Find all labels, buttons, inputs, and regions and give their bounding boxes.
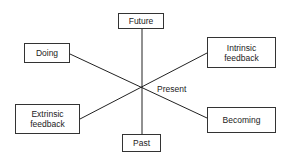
node-extrinsic-feedback: Extrinsic feedback [15,104,80,134]
node-intrinsic-feedback: Intrinsic feedback [207,37,276,68]
center-label-present: Present [157,84,186,94]
node-becoming: Becoming [207,107,276,133]
node-future: Future [118,13,164,29]
node-doing: Doing [24,43,70,63]
node-past: Past [122,134,161,152]
